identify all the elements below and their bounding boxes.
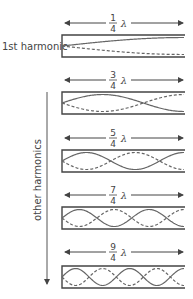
closed-tube-harmonics-diagram: 1st harmonic other harmonics 14λ34λ54λ74…	[0, 0, 193, 299]
tube-walls	[62, 92, 185, 114]
fraction-denominator: 4	[110, 81, 116, 91]
wave-dashed	[62, 46, 184, 55]
fraction-numerator: 1	[110, 13, 116, 23]
fraction-numerator: 3	[110, 70, 116, 80]
fraction-denominator: 4	[110, 139, 116, 149]
lambda-symbol: λ	[120, 75, 127, 86]
other-harmonics-label: other harmonics	[32, 139, 43, 221]
fraction-denominator: 4	[110, 253, 116, 263]
first-harmonic-label: 1st harmonic	[2, 41, 68, 52]
lambda-symbol: λ	[120, 18, 127, 29]
fraction-denominator: 4	[110, 196, 116, 206]
wave-solid	[62, 38, 184, 47]
lambda-symbol: λ	[120, 190, 127, 201]
fraction-denominator: 4	[110, 24, 116, 34]
fraction-numerator: 5	[110, 128, 116, 138]
harmonic-tube-7: 74λ	[62, 185, 185, 229]
lambda-symbol: λ	[120, 133, 127, 144]
wave-solid	[62, 269, 184, 286]
lambda-symbol: λ	[120, 247, 127, 258]
fraction-numerator: 9	[110, 242, 116, 252]
fraction-numerator: 7	[110, 185, 116, 195]
harmonic-tube-5: 54λ	[62, 128, 185, 172]
harmonic-tube-9: 94λ	[62, 242, 185, 288]
harmonic-tube-1: 14λ	[62, 13, 185, 57]
harmonic-tube-3: 34λ	[62, 70, 185, 114]
